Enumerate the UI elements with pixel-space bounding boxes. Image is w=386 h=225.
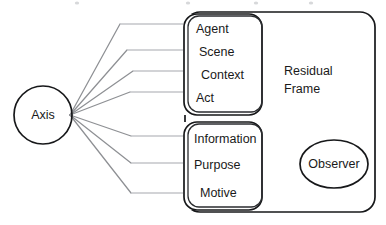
axis-residual-frame-diagram: Axis Observer Residual Frame AgentSceneC… [0,0,386,225]
lower-item-motive[interactable]: Motive [200,186,237,200]
axis-to-information-connector-diagonal [70,115,131,136]
diagram-canvas: Axis Observer Residual Frame AgentSceneC… [0,0,386,225]
axis-to-agent-connector-diagonal [70,24,120,115]
axis-to-act-connector-diagonal [70,92,130,115]
axis-to-purpose-connector-diagonal [70,115,131,163]
upper-item-scene[interactable]: Scene [199,45,234,59]
lower-item-information[interactable]: Information [194,132,257,146]
lower-item-purpose[interactable]: Purpose [194,158,241,172]
residual-frame-label-line1: Residual [284,64,333,78]
upper-item-agent[interactable]: Agent [196,22,229,36]
upper-item-act[interactable]: Act [196,91,215,105]
residual-frame-label-line2: Frame [284,82,320,96]
observer-node-label: Observer [308,157,359,171]
upper-item-context[interactable]: Context [201,68,245,82]
axis-to-motive-connector-diagonal [70,115,131,193]
axis-to-scene-connector-diagonal [70,50,127,115]
axis-node-label: Axis [31,108,55,122]
axis-to-context-connector-diagonal [70,71,133,115]
scan-artifacts [75,1,313,4]
connector-group [70,24,188,193]
